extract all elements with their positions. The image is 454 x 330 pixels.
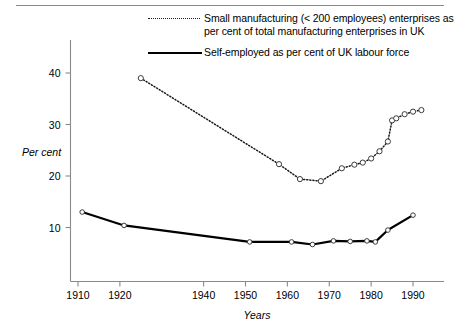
data-point-marker (386, 228, 391, 233)
x-tick-label-1940: 1940 (192, 289, 216, 301)
x-tick-label-1950: 1950 (234, 289, 258, 301)
data-point-marker (373, 240, 378, 245)
data-point-marker (247, 240, 252, 245)
y-tick-label-40: 40 (49, 67, 61, 79)
data-point-marker (318, 179, 323, 184)
x-tick-label-1960: 1960 (276, 289, 300, 301)
data-point-marker (276, 162, 281, 167)
x-tick-label-1990: 1990 (401, 289, 425, 301)
x-axis-title: Years (244, 309, 272, 321)
x-tick-label-1980: 1980 (359, 289, 383, 301)
x-tick-label-1970: 1970 (318, 289, 342, 301)
y-tick-label-20: 20 (49, 170, 61, 182)
data-point-marker (385, 139, 390, 144)
data-point-marker (348, 239, 353, 244)
data-point-marker (80, 210, 85, 215)
data-series-group (80, 76, 424, 247)
chart-figure: Small manufacturing (< 200 employees) en… (0, 0, 454, 330)
data-point-marker (419, 107, 424, 112)
x-tick-label-1920: 1920 (108, 289, 132, 301)
data-point-marker (410, 109, 415, 114)
data-point-marker (122, 223, 127, 228)
x-tick-label-1910: 1910 (66, 289, 90, 301)
data-point-marker (339, 166, 344, 171)
data-point-marker (365, 239, 370, 244)
plot-area: 10203040 1910192019401950196019701980199… (0, 0, 454, 330)
data-point-marker (402, 112, 407, 117)
y-tick-label-10: 10 (49, 222, 61, 234)
axes-group (71, 40, 445, 282)
data-point-marker (352, 162, 357, 167)
data-point-marker (297, 176, 302, 181)
data-point-marker (331, 239, 336, 244)
data-point-marker (377, 149, 382, 154)
data-point-marker (310, 242, 315, 247)
data-point-marker (138, 76, 143, 81)
data-point-marker (394, 116, 399, 121)
series-line-self-employed (82, 212, 413, 244)
y-tick-label-30: 30 (49, 119, 61, 131)
data-point-marker (360, 160, 365, 165)
data-point-marker (369, 156, 374, 161)
y-axis-title: Per cent (22, 146, 62, 158)
data-point-marker (289, 240, 294, 245)
x-tick-group: 19101920194019501960197019801990 (66, 282, 425, 301)
data-point-marker (411, 213, 416, 218)
